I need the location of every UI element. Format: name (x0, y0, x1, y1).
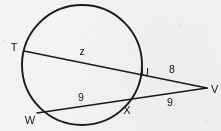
measure-label-xv: 9 (167, 96, 173, 108)
point-label-w: W (25, 114, 36, 126)
geometry-diagram: T U V W X z 8 9 9 (0, 0, 221, 131)
point-label-u: U (141, 66, 149, 78)
measure-label-wx: 9 (78, 91, 84, 103)
point-label-x: X (123, 104, 131, 116)
circle-secant-figure: T U V W X z 8 9 9 (0, 0, 221, 131)
point-label-v: V (211, 83, 219, 95)
secant-line-tv (24, 51, 207, 88)
point-label-t: T (11, 41, 18, 53)
measure-label-tu: z (79, 45, 84, 57)
measure-label-uv: 8 (169, 63, 175, 75)
